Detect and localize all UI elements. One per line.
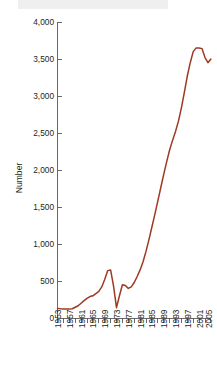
- y-tick-label: 4,000: [33, 17, 54, 27]
- x-tick-label: 1973: [112, 309, 122, 328]
- y-tick-label: 500: [40, 276, 54, 286]
- x-tick-label: 1977: [124, 309, 134, 328]
- x-tick-label: 1961: [77, 309, 87, 328]
- y-axis-title: Number: [14, 163, 24, 194]
- y-tick-label: 3,000: [33, 91, 54, 101]
- y-tick-label: 2,500: [33, 128, 54, 138]
- x-tick-label: 1965: [88, 309, 98, 328]
- x-tick-label: 1997: [183, 309, 193, 328]
- line-chart: Number 4,000 3,500 3,000 2,500 2,000 1,5…: [0, 0, 217, 370]
- y-tick-label: 2,000: [33, 165, 54, 175]
- x-tick-label: 1957: [65, 309, 75, 328]
- y-tick-label: 1,500: [33, 202, 54, 212]
- chart-figure: Number 4,000 3,500 3,000 2,500 2,000 1,5…: [0, 0, 217, 370]
- data-series-line: [58, 48, 211, 309]
- x-tick-label: 1981: [136, 309, 146, 328]
- x-tick-label: 1985: [147, 309, 157, 328]
- x-axis-tick-labels: 1953 1957 1961 1965 1969 1973 1977 1981 …: [53, 309, 214, 328]
- x-tick-label: 1969: [100, 309, 110, 328]
- x-tick-label: 1989: [159, 309, 169, 328]
- x-tick-label: 2005: [204, 309, 214, 328]
- x-tick-label: 2001: [195, 309, 205, 328]
- y-tick-label: 1,000: [33, 239, 54, 249]
- y-tick-label: 3,500: [33, 54, 54, 64]
- x-tick-label: 1953: [53, 309, 63, 328]
- x-tick-label: 1993: [171, 309, 181, 328]
- y-axis-tick-labels: 4,000 3,500 3,000 2,500 2,000 1,500 1,00…: [33, 17, 54, 323]
